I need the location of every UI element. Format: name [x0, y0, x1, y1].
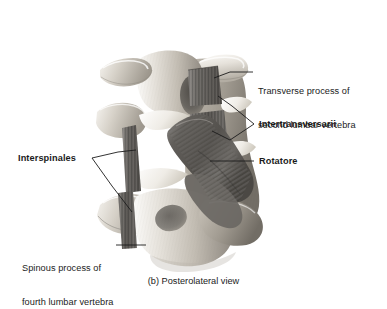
label-spinous-process: Spinous process of fourth lumbar vertebr… [22, 240, 114, 309]
label-rotatore: Rotatore [259, 156, 298, 167]
label-transverse-process: Transverse process of second lumbar vert… [258, 63, 356, 154]
figure-caption: (b) Posterolateral view [0, 276, 387, 286]
label-transverse-process-line1: Transverse process of [258, 86, 356, 97]
leader-transverse-process [214, 72, 253, 78]
leader-interspinales-lower [92, 158, 132, 212]
leader-intertransversarii-lower [212, 124, 254, 140]
label-spinous-process-line1: Spinous process of [22, 263, 114, 274]
label-interspinales: Interspinales [18, 153, 76, 164]
leader-interspinales-upper [92, 150, 136, 158]
label-spinous-process-line2: fourth lumbar vertebra [22, 297, 114, 308]
leader-intertransversarii-upper [218, 96, 254, 124]
label-intertransversarii: Intertransversarii [259, 119, 336, 130]
